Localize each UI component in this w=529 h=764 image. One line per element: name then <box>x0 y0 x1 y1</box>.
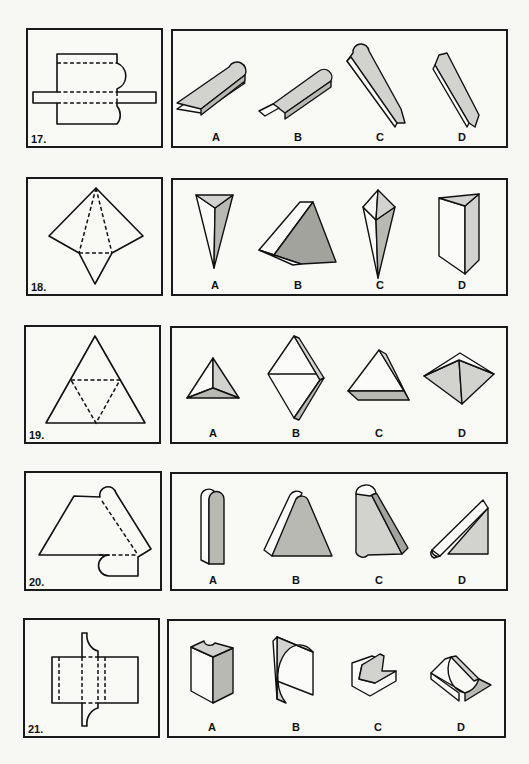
net-box-20: 20. <box>24 471 162 591</box>
option-label-a[interactable]: A <box>212 131 220 143</box>
problem-number: 17. <box>31 133 46 145</box>
option-c-figure <box>356 485 408 557</box>
net-figure-18 <box>28 179 165 298</box>
options-box-18: A B C D <box>171 178 508 296</box>
net-figure-19 <box>26 327 163 446</box>
problem-number: 18. <box>31 281 46 293</box>
option-label-a[interactable]: A <box>211 279 219 291</box>
problem-number: 21. <box>28 723 43 735</box>
option-label-a[interactable]: A <box>208 721 216 733</box>
option-label-c[interactable]: C <box>376 279 384 291</box>
option-c-figure <box>352 654 396 696</box>
option-label-c[interactable]: C <box>376 131 384 143</box>
option-c-figure <box>348 350 409 400</box>
option-label-b[interactable]: B <box>294 279 302 291</box>
problem-number: 20. <box>29 576 44 588</box>
option-d-figure <box>431 500 488 558</box>
net-box-18: 18. <box>26 177 163 296</box>
option-b-figure <box>268 336 324 420</box>
option-d-figure <box>424 353 494 404</box>
option-a-figure <box>201 489 224 564</box>
options-box-21: A B C D <box>167 619 506 738</box>
option-b-figure <box>264 491 332 556</box>
problem-number: 19. <box>29 429 44 441</box>
net-figure-17 <box>28 30 165 150</box>
options-box-19: A B C D <box>170 326 508 444</box>
option-b-figure <box>273 637 313 703</box>
option-label-b[interactable]: B <box>294 131 302 143</box>
option-label-c[interactable]: C <box>375 574 383 586</box>
option-label-b[interactable]: B <box>292 574 300 586</box>
option-c-figure <box>363 190 395 278</box>
option-label-d[interactable]: D <box>458 574 466 586</box>
option-label-b[interactable]: B <box>292 427 300 439</box>
option-a-figure <box>177 62 246 115</box>
option-a-figure <box>191 641 233 703</box>
option-a-figure <box>196 195 233 268</box>
option-label-d[interactable]: D <box>458 427 466 439</box>
option-d-figure <box>433 53 479 127</box>
option-label-a[interactable]: A <box>209 427 217 439</box>
option-label-d[interactable]: D <box>458 279 466 291</box>
options-box-20: A B C D <box>170 472 508 591</box>
option-label-d[interactable]: D <box>457 721 465 733</box>
option-label-c[interactable]: C <box>374 721 382 733</box>
option-label-d[interactable]: D <box>458 131 466 143</box>
net-box-19: 19. <box>24 325 161 444</box>
option-a-figure <box>187 358 239 398</box>
net-figure-20 <box>26 473 164 593</box>
net-box-21: 21. <box>23 618 160 738</box>
option-label-b[interactable]: B <box>292 721 300 733</box>
options-box-17: A B C D <box>171 29 508 148</box>
option-label-a[interactable]: A <box>209 574 217 586</box>
option-c-figure <box>347 44 405 127</box>
net-figure-21 <box>25 620 162 740</box>
net-box-17: 17. <box>26 28 163 148</box>
option-b-figure <box>259 69 332 119</box>
option-b-figure <box>259 202 336 265</box>
option-d-figure <box>439 194 479 274</box>
option-label-c[interactable]: C <box>375 427 383 439</box>
option-d-figure <box>431 656 491 701</box>
